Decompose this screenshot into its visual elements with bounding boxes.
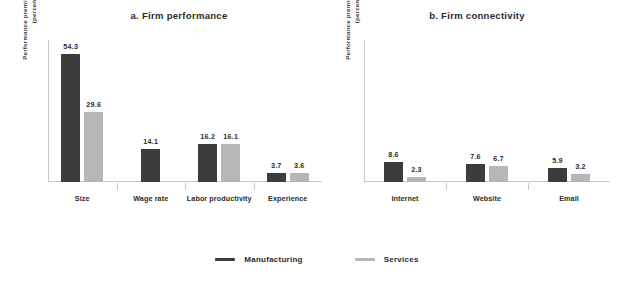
bar-manufacturing — [466, 164, 485, 182]
panel-a-title: a. Firm performance — [0, 10, 330, 21]
bar-value-label: 3.7 — [271, 161, 282, 170]
bar-services — [84, 112, 103, 182]
legend-swatch-icon — [355, 258, 375, 261]
bar-services — [571, 174, 590, 182]
bar-with-value: 16.1 — [221, 40, 240, 182]
category-label: Email — [528, 194, 610, 203]
bar-with-value: 7.6 — [466, 40, 485, 182]
bar-group: 14.1 — [117, 40, 186, 182]
bar-with-value: 14.1 — [141, 40, 160, 182]
bar-group: 3.73.6 — [254, 40, 323, 182]
bar-value-label: 16.2 — [200, 132, 215, 141]
panel-b-title: b. Firm connectivity — [330, 10, 634, 21]
bar-value-label: 3.2 — [575, 162, 586, 171]
bar-value-label: 14.1 — [143, 137, 158, 146]
bar-with-value: 3.6 — [290, 40, 309, 182]
category-label: Internet — [364, 194, 446, 203]
bar-group: 5.93.2 — [528, 40, 610, 182]
bar-manufacturing — [548, 168, 567, 182]
bar-with-value: 3.2 — [571, 40, 590, 182]
bar-value-label: 29.6 — [86, 100, 101, 109]
legend-item-manufacturing[interactable]: Manufacturing — [215, 255, 302, 264]
panel-b-firm-connectivity: b. Firm connectivity Performance premium… — [330, 0, 634, 240]
figure-two-panel-bar-chart: a. Firm performance Performance premium … — [0, 0, 634, 290]
panel-a-category-labels: SizeWage rateLabor productivityExperienc… — [48, 182, 322, 203]
legend-item-services[interactable]: Services — [355, 255, 419, 264]
category-label: Experience — [254, 194, 323, 203]
panel-b-plot-area: 8.62.37.66.75.93.2 InternetWebsiteEmail — [364, 40, 610, 182]
bar-group: 7.66.7 — [446, 40, 528, 182]
bar-value-label: 3.6 — [294, 161, 305, 170]
panel-b-y-axis-label: Performance premium of male-owned firms … — [344, 0, 366, 62]
bar-with-value: 5.9 — [548, 40, 567, 182]
bar-services — [489, 166, 508, 182]
legend-swatch-icon — [215, 258, 235, 261]
legend-label: Services — [384, 255, 419, 264]
bar-value-label: 6.7 — [493, 154, 504, 163]
category-label: Size — [48, 194, 117, 203]
panel-b-category-labels: InternetWebsiteEmail — [364, 182, 610, 203]
bar-with-value: 3.7 — [267, 40, 286, 182]
bar-with-value: 2.3 — [407, 40, 426, 182]
bar-with-value: 6.7 — [489, 40, 508, 182]
bar-group: 54.329.6 — [48, 40, 117, 182]
bar-value-label: 54.3 — [63, 42, 78, 51]
bar-with-value: 29.6 — [84, 40, 103, 182]
bar-manufacturing — [61, 54, 80, 183]
legend-label: Manufacturing — [244, 255, 302, 264]
panel-a-plot-area: 54.329.614.116.216.13.73.6 SizeWage rate… — [48, 40, 322, 182]
panel-a-y-axis-label: Performance premium of male-owned firms … — [21, 0, 43, 62]
panel-b-bar-groups: 8.62.37.66.75.93.2 — [364, 40, 610, 182]
panel-a-bar-groups: 54.329.614.116.216.13.73.6 — [48, 40, 322, 182]
bar-services — [221, 144, 240, 182]
bar-group: 8.62.3 — [364, 40, 446, 182]
category-label: Wage rate — [117, 194, 186, 203]
bar-value-label: 7.6 — [470, 152, 481, 161]
bar-manufacturing — [198, 144, 217, 182]
bar-with-value: 8.6 — [384, 40, 403, 182]
bar-value-label: 8.6 — [388, 150, 399, 159]
chart-legend: ManufacturingServices — [0, 255, 634, 264]
bar-value-label: 2.3 — [411, 165, 422, 174]
bar-services — [290, 173, 309, 182]
bar-with-value: 16.2 — [198, 40, 217, 182]
category-label: Website — [446, 194, 528, 203]
bar-manufacturing — [267, 173, 286, 182]
bar-manufacturing — [141, 149, 160, 182]
bar-manufacturing — [384, 162, 403, 182]
bar-group: 16.216.1 — [185, 40, 254, 182]
category-label: Labor productivity — [185, 194, 254, 203]
panel-a-firm-performance: a. Firm performance Performance premium … — [0, 0, 330, 240]
bar-value-label: 16.1 — [223, 132, 238, 141]
bar-with-value: 54.3 — [61, 40, 80, 182]
bar-value-label: 5.9 — [552, 156, 563, 165]
